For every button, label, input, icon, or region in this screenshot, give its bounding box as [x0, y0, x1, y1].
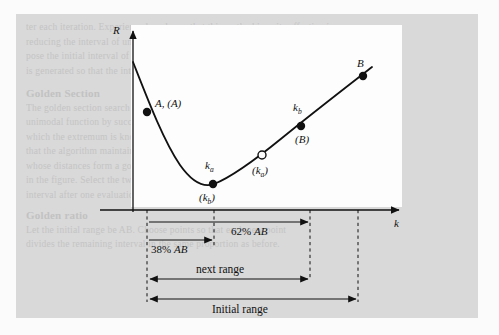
- axis-label-k: k: [394, 217, 399, 229]
- curve-label-kb-top: kb: [293, 101, 302, 116]
- diagram-svg: [0, 0, 499, 335]
- measure-label-38: 38% AB: [151, 243, 187, 255]
- curve-point-A: [143, 108, 151, 116]
- curve-label-ka-paren: (ka): [252, 164, 268, 179]
- curve-label-A: A, (A): [155, 97, 181, 109]
- curve-point-ka: [209, 180, 217, 188]
- curve-label-B-paren: (B): [295, 133, 309, 145]
- measure-label-next-range: next range: [196, 263, 244, 275]
- curve-label-kb-top-sub: b: [298, 107, 302, 116]
- curve-label-ka-top: ka: [205, 159, 214, 174]
- curve-point-ka-open: [258, 151, 266, 159]
- curve-point-B: [359, 72, 367, 80]
- measure-label-62-pct: 62%: [231, 225, 251, 237]
- measure-label-38-ab: AB: [174, 243, 187, 255]
- curve-label-kb-paren: (kb): [199, 191, 215, 206]
- measure-label-62-ab: AB: [254, 225, 267, 237]
- curve-label-kb-paren-open: (k: [199, 191, 208, 203]
- measure-label-initial-range: Initial range: [212, 303, 268, 315]
- measure-label-38-pct: 38%: [151, 243, 171, 255]
- curve-label-kb-paren-close: ): [211, 191, 215, 203]
- axis-label-R: R: [113, 24, 120, 36]
- curve-label-ka-top-sub: a: [210, 165, 214, 174]
- curve-label-ka-paren-open: (k: [252, 164, 261, 176]
- curve-label-B: B: [357, 57, 364, 69]
- curve-point-kb: [297, 122, 305, 130]
- figure-root: ter each iteration. Experience has shown…: [0, 0, 499, 335]
- curve-label-ka-paren-close: ): [264, 164, 268, 176]
- measure-label-62: 62% AB: [231, 225, 267, 237]
